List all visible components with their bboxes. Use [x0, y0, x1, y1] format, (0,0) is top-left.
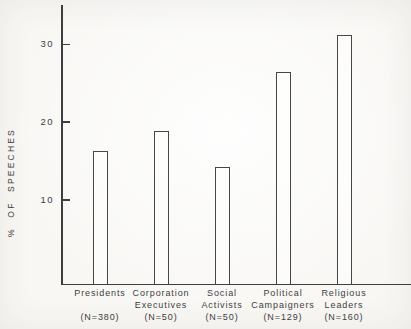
- y-tick-label-10: 10: [28, 194, 54, 205]
- category-label-line: Religious: [292, 288, 396, 298]
- y-tick-mark-30: [61, 44, 70, 46]
- y-tick-label-20: 20: [28, 116, 54, 127]
- category-label-religious-leaders: ReligiousLeaders(N=160): [292, 288, 396, 328]
- y-axis-label: % OF SPEECHES: [6, 112, 16, 237]
- y-tick-mark-10: [61, 199, 70, 201]
- y-tick-mark-20: [61, 121, 70, 123]
- bar-presidents: [93, 151, 108, 284]
- y-tick-label-30: 30: [28, 38, 54, 49]
- bar-religious-leaders: [337, 35, 352, 284]
- bar-corporation-executives: [154, 131, 169, 284]
- bar-political-campaigners: [276, 72, 291, 284]
- category-label-line: Leaders: [292, 300, 396, 310]
- x-axis-line: [61, 284, 411, 286]
- y-axis-line: [61, 5, 63, 284]
- bar-chart-figure: % OF SPEECHES 102030Presidents(N=380)Cor…: [0, 0, 411, 329]
- bar-social-activists: [215, 167, 230, 284]
- sample-size-label: (N=160): [292, 312, 396, 322]
